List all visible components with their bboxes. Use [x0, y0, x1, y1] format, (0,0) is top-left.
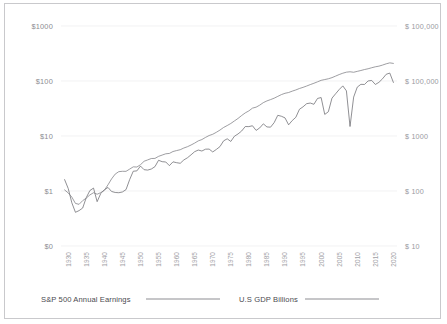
x-axis-tick: 2000	[318, 252, 325, 267]
x-axis-tick: 2010	[354, 252, 361, 267]
y-axis-left-tick: $10	[40, 132, 53, 141]
x-axis-tick: 1990	[281, 252, 288, 267]
x-axis-tick: 1935	[83, 252, 90, 267]
y-axis-right-tick: $ 1000	[405, 132, 428, 141]
legend-label: U.S GDP Billions	[239, 295, 298, 304]
x-axis-tick: 1980	[245, 252, 252, 267]
line-chart: $1000$100$10$1$0 $ 100,000$ 100,000$ 100…	[5, 4, 442, 320]
y-axis-right-tick: $ 100,000	[405, 77, 439, 86]
x-axis-tick: 1955	[155, 252, 162, 267]
series-lines	[65, 63, 394, 212]
y-axis-left-tick: $0	[44, 242, 53, 251]
x-axis-tick: 2015	[372, 252, 379, 267]
y-axis-right-tick: $ 10	[405, 242, 420, 251]
x-axis-tick: 1975	[227, 252, 234, 267]
legend-label: S&P 500 Annual Earnings	[41, 295, 131, 304]
y-axis-right: $ 100,000$ 100,000$ 1000$ 100$ 10	[405, 22, 439, 251]
x-axis-tick: 1965	[191, 252, 198, 267]
chart-card: $1000$100$10$1$0 $ 100,000$ 100,000$ 100…	[4, 3, 441, 319]
series-line-sp500-earnings	[65, 73, 394, 212]
x-axis-tick: 1970	[209, 252, 216, 267]
x-axis-tick: 1930	[65, 252, 72, 267]
y-axis-left: $1000$100$10$1$0	[31, 22, 53, 251]
x-axis-tick: 1985	[263, 252, 270, 267]
chart-legend: S&P 500 Annual EarningsU.S GDP Billions	[41, 295, 379, 304]
gridlines	[61, 26, 397, 246]
x-axis: 1930193519401945195019551960196519701975…	[65, 252, 397, 267]
x-axis-tick: 1960	[173, 252, 180, 267]
x-axis-tick: 2005	[336, 252, 343, 267]
x-axis-tick: 1950	[137, 252, 144, 267]
series-line-us-gdp	[65, 63, 394, 204]
chart-plot-area: $1000$100$10$1$0 $ 100,000$ 100,000$ 100…	[5, 4, 442, 320]
y-axis-left-tick: $100	[36, 77, 53, 86]
x-axis-tick: 1945	[119, 252, 126, 267]
y-axis-right-tick: $ 100	[405, 187, 424, 196]
y-axis-left-tick: $1	[44, 187, 53, 196]
y-axis-right-tick: $ 100,000	[405, 22, 439, 31]
y-axis-left-tick: $1000	[31, 22, 53, 31]
x-axis-tick: 1940	[101, 252, 108, 267]
x-axis-tick: 1995	[299, 252, 306, 267]
x-axis-tick: 2020	[390, 252, 397, 267]
